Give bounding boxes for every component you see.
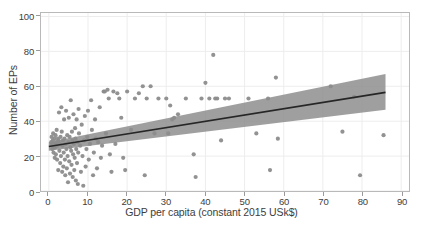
x-tick-mark xyxy=(165,192,166,196)
y-tick-label: 0 xyxy=(6,187,34,198)
x-tick-mark xyxy=(284,192,285,196)
x-tick-mark xyxy=(402,192,403,196)
y-tick-mark xyxy=(36,121,40,122)
x-tick-mark xyxy=(244,192,245,196)
confidence-band xyxy=(49,74,386,151)
x-tick-mark xyxy=(205,192,206,196)
y-tick-label: 20 xyxy=(6,151,34,162)
y-tick-mark xyxy=(36,50,40,51)
y-tick-label: 80 xyxy=(6,45,34,56)
y-tick-label: 100 xyxy=(6,10,34,21)
y-axis-title: Number of EPs xyxy=(7,40,19,160)
x-tick-mark xyxy=(47,192,48,196)
plot-area xyxy=(40,12,410,192)
x-tick-mark xyxy=(126,192,127,196)
y-tick-mark xyxy=(36,156,40,157)
y-tick-label: 60 xyxy=(6,81,34,92)
x-tick-mark xyxy=(87,192,88,196)
chart-figure: Number of EPs 02040608010001020304050607… xyxy=(0,0,423,230)
scatter-plot-canvas xyxy=(41,13,409,191)
x-tick-mark xyxy=(362,192,363,196)
y-tick-mark xyxy=(36,15,40,16)
x-tick-mark xyxy=(323,192,324,196)
x-axis-title: GDP per capita (constant 2015 USk$) xyxy=(0,206,423,218)
y-tick-label: 40 xyxy=(6,116,34,127)
y-tick-mark xyxy=(36,86,40,87)
y-tick-mark xyxy=(36,192,40,193)
